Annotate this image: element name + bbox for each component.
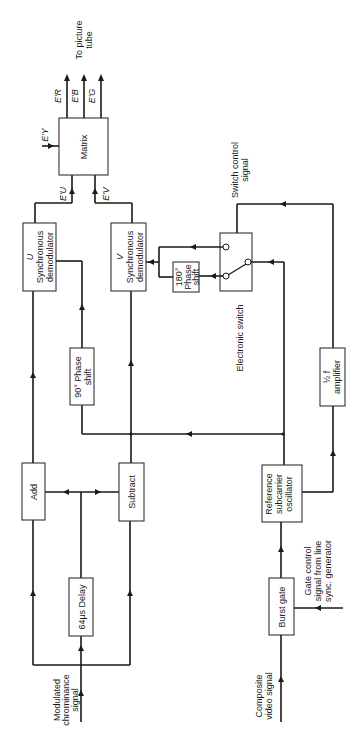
svg-text:signal from line: signal from line [313, 541, 323, 602]
reference-carrier-line [82, 405, 285, 437]
svg-text:subcarrier: subcarrier [274, 474, 284, 514]
burst-gate-block: Burst gate [269, 578, 294, 635]
svg-text:signal: signal [240, 158, 250, 182]
svg-text:amplifier: amplifier [332, 360, 342, 394]
matrix-outputs: E'R E'B E'G To picture tube [53, 20, 104, 118]
subtract-block: Subtract [119, 463, 144, 521]
u-sync-demodulator-block: U Synchronous demodulator [23, 223, 56, 291]
svg-text:E'G: E'G [87, 89, 97, 104]
svg-text:signal: signal [70, 688, 80, 712]
matrix-block: Matrix [59, 118, 108, 175]
eu-label: E'U [58, 186, 68, 201]
svg-text:oscillator: oscillator [284, 476, 294, 512]
svg-text:To picture: To picture [74, 20, 84, 59]
ev-label: E'V [101, 186, 111, 201]
svg-text:shift: shift [191, 268, 201, 285]
svg-text:demodulator: demodulator [135, 232, 145, 282]
svg-text:U: U [25, 253, 35, 260]
subtract-label: Subtract [127, 475, 137, 509]
phase-shift-180-block: 180° Phase shift [173, 262, 201, 292]
delay-block: 64μs Delay [69, 578, 93, 636]
reference-oscillator-block: Reference subcarrier oscillator [262, 465, 302, 522]
v-sync-demodulator-block: V Synchronous demodulator [111, 223, 146, 291]
svg-text:E'B: E'B [70, 89, 80, 103]
svg-text:shift: shift [83, 368, 93, 385]
svg-text:demodulator: demodulator [45, 232, 55, 282]
svg-text:Reference: Reference [264, 473, 274, 515]
svg-text:Burst gate: Burst gate [277, 586, 287, 627]
add-block: Add [22, 463, 45, 520]
svg-text:V: V [115, 253, 125, 260]
electronic-switch-block: Electronic switch [220, 233, 252, 372]
svg-text:Synchronous: Synchronous [35, 230, 45, 283]
svg-text:tube: tube [84, 31, 94, 49]
svg-text:Synchronous: Synchronous [125, 230, 135, 283]
svg-text:Switch control: Switch control [230, 142, 240, 198]
svg-text:Composite: Composite [254, 674, 264, 717]
pal-decoder-diagram: 64μs Delay Add Subtract 90° Phase shift … [0, 0, 364, 752]
svg-text:½ f: ½ f [322, 370, 332, 383]
add-label: Add [29, 484, 39, 500]
delay-label: 64μs Delay [77, 584, 87, 630]
tuned-amplifier-block: ½ f amplifier [320, 348, 345, 406]
svg-text:Gate control: Gate control [303, 546, 313, 595]
svg-text:video signal: video signal [264, 672, 274, 720]
svg-text:90° Phase: 90° Phase [73, 356, 83, 398]
svg-text:sync. generator: sync. generator [323, 540, 333, 602]
svg-text:Matrix: Matrix [79, 134, 89, 159]
ey-label: E'Y [40, 127, 50, 142]
phase-shift-90-block: 90° Phase shift [70, 348, 94, 405]
svg-text:Electronic switch: Electronic switch [235, 304, 245, 371]
svg-text:E'R: E'R [53, 88, 63, 103]
